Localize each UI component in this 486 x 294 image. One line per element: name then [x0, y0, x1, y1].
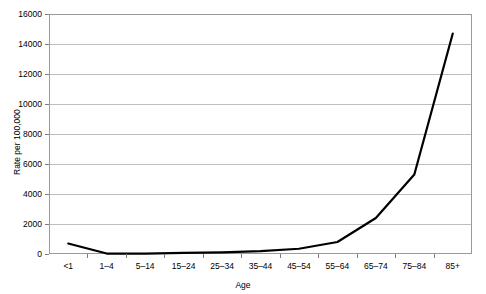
- x-axis-title: Age: [0, 280, 486, 290]
- x-tick-mark: [87, 254, 88, 258]
- x-tick-label: 65–74: [357, 262, 395, 271]
- y-axis-title: Rate per 100,000: [12, 109, 22, 175]
- y-tick-label: 12000: [18, 70, 42, 79]
- x-tick-mark: [434, 254, 435, 258]
- x-tick-label: 15–24: [164, 262, 202, 271]
- y-tick-mark: [45, 194, 49, 195]
- y-tick-mark: [45, 224, 49, 225]
- y-tick-mark: [45, 134, 49, 135]
- y-tick-label: 10000: [18, 100, 42, 109]
- plot-area: [49, 14, 472, 254]
- x-tick-mark: [395, 254, 396, 258]
- y-tick-mark: [45, 74, 49, 75]
- x-tick-label: <1: [49, 262, 87, 271]
- x-tick-mark: [357, 254, 358, 258]
- x-tick-label: 1–4: [87, 262, 125, 271]
- gridline: [50, 194, 471, 195]
- y-tick-mark: [45, 14, 49, 15]
- y-tick-label: 4000: [23, 190, 42, 199]
- x-tick-label: 55–64: [318, 262, 356, 271]
- line-chart: 0200040006000800010000120001400016000 Ra…: [0, 0, 486, 294]
- y-tick-label: 14000: [18, 40, 42, 49]
- y-axis: 0200040006000800010000120001400016000: [0, 0, 49, 294]
- y-tick-label: 16000: [18, 10, 42, 19]
- x-tick-mark: [126, 254, 127, 258]
- x-tick-mark: [318, 254, 319, 258]
- y-tick-label: 8000: [23, 130, 42, 139]
- y-tick-mark: [45, 44, 49, 45]
- gridline: [50, 74, 471, 75]
- x-tick-mark: [203, 254, 204, 258]
- gridline: [50, 44, 471, 45]
- gridline: [50, 164, 471, 165]
- x-tick-label: 75–84: [395, 262, 433, 271]
- x-tick-label: 5–14: [126, 262, 164, 271]
- x-tick-mark: [164, 254, 165, 258]
- y-tick-label: 0: [37, 250, 42, 259]
- x-tick-mark: [241, 254, 242, 258]
- x-tick-label: 35–44: [241, 262, 279, 271]
- gridline: [50, 134, 471, 135]
- y-tick-mark: [45, 254, 49, 255]
- x-tick-mark: [280, 254, 281, 258]
- y-tick-label: 2000: [23, 220, 42, 229]
- x-tick-label: 45–54: [280, 262, 318, 271]
- x-tick-label: 85+: [434, 262, 472, 271]
- y-tick-mark: [45, 164, 49, 165]
- y-tick-label: 6000: [23, 160, 42, 169]
- gridline: [50, 224, 471, 225]
- x-tick-label: 25–34: [203, 262, 241, 271]
- y-tick-mark: [45, 104, 49, 105]
- gridline: [50, 104, 471, 105]
